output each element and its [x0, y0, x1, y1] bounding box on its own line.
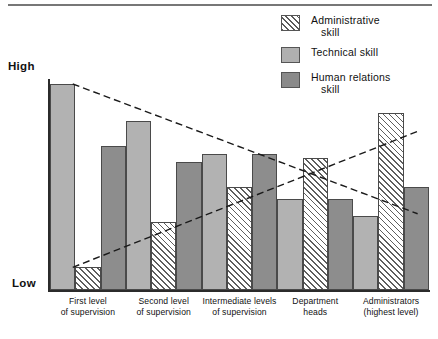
x-axis-label-group-3-line-2: of supervision: [202, 307, 278, 318]
bar-administrative-group-5: [378, 113, 403, 290]
bar-human-group-5: [404, 187, 429, 290]
bar-technical-group-2: [126, 121, 151, 290]
x-axis-label-group-5-line-2: (highest level): [353, 307, 429, 318]
plot-area: [0, 0, 438, 339]
x-axis-label-group-3-line-1: Intermediate levels: [202, 296, 278, 307]
bar-technical-group-1: [50, 84, 75, 290]
bar-administrative-group-1: [75, 267, 100, 290]
x-axis-label-group-1-line-2: of supervision: [50, 307, 126, 318]
bar-human-group-1: [101, 146, 126, 290]
x-axis-category-labels: First levelof supervisionSecond levelof …: [48, 296, 432, 336]
bar-technical-group-4: [277, 199, 302, 290]
x-axis-label-group-4: Departmentheads: [277, 296, 353, 317]
x-axis-label-group-1: First levelof supervision: [50, 296, 126, 317]
x-axis-label-group-2-line-1: Second level: [126, 296, 202, 307]
x-axis-label-group-2: Second levelof supervision: [126, 296, 202, 317]
x-axis-label-group-4-line-2: heads: [277, 307, 353, 318]
x-axis-label-group-5: Administrators(highest level): [353, 296, 429, 317]
x-axis-label-group-4-line-1: Department: [277, 296, 353, 307]
bar-human-group-2: [176, 162, 201, 290]
figure-root: Administrativeskill Technical skill Huma…: [0, 0, 438, 339]
x-axis-label-group-2-line-2: of supervision: [126, 307, 202, 318]
bar-technical-group-3: [202, 154, 227, 290]
bar-administrative-group-3: [227, 187, 252, 290]
bar-administrative-group-2: [151, 222, 176, 290]
bar-technical-group-5: [353, 216, 378, 290]
x-axis-label-group-1-line-1: First level: [50, 296, 126, 307]
bar-administrative-group-4: [303, 158, 328, 290]
x-axis-label-group-5-line-1: Administrators: [353, 296, 429, 307]
bar-human-group-4: [328, 199, 353, 290]
bar-human-group-3: [252, 154, 277, 290]
x-axis-label-group-3: Intermediate levelsof supervision: [202, 296, 278, 317]
